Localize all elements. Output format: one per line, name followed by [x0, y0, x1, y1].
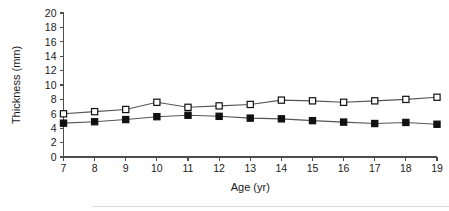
chart-axes — [64, 13, 438, 157]
data-point-filled-square-series — [278, 116, 284, 122]
chart-series — [60, 94, 440, 127]
data-point-filled-square-series — [247, 115, 253, 121]
data-point-filled-square-series — [92, 119, 98, 125]
data-point-open-square-series — [434, 94, 440, 100]
data-point-open-square-series — [154, 99, 160, 105]
y-tick-label: 2 — [51, 136, 57, 148]
y-tick-label: 16 — [45, 36, 57, 48]
x-tick-label: 17 — [369, 162, 381, 174]
footer-rule — [92, 206, 449, 207]
x-tick-label: 14 — [276, 162, 288, 174]
y-tick-label: 6 — [51, 108, 57, 120]
y-tick-label: 12 — [45, 64, 57, 76]
data-point-filled-square-series — [216, 113, 222, 119]
data-point-filled-square-series — [185, 112, 191, 118]
data-point-open-square-series — [341, 99, 347, 105]
data-point-filled-square-series — [60, 120, 66, 126]
data-point-open-square-series — [60, 111, 66, 117]
data-point-open-square-series — [372, 98, 378, 104]
x-axis-ticks: 78910111213141516171819 — [61, 157, 443, 174]
x-tick-label: 13 — [244, 162, 256, 174]
x-tick-label: 12 — [213, 162, 225, 174]
line-chart: 02468101214161820 7891011121314151617181… — [0, 0, 449, 211]
x-tick-label: 19 — [431, 162, 443, 174]
data-point-open-square-series — [92, 109, 98, 115]
chart-figure: 02468101214161820 7891011121314151617181… — [0, 0, 449, 211]
data-point-filled-square-series — [154, 114, 160, 120]
x-tick-label: 9 — [123, 162, 129, 174]
y-tick-label: 14 — [45, 50, 57, 62]
y-tick-label: 20 — [45, 7, 57, 19]
data-point-filled-square-series — [403, 119, 409, 125]
x-tick-label: 7 — [61, 162, 67, 174]
y-axis-title: Thickness (mm) — [10, 46, 22, 124]
data-point-open-square-series — [216, 103, 222, 109]
data-point-filled-square-series — [372, 120, 378, 126]
data-point-filled-square-series — [341, 119, 347, 125]
data-point-open-square-series — [185, 104, 191, 110]
data-point-open-square-series — [309, 98, 315, 104]
x-tick-label: 10 — [151, 162, 163, 174]
y-tick-label: 10 — [45, 79, 57, 91]
data-point-open-square-series — [403, 96, 409, 102]
data-point-filled-square-series — [123, 116, 129, 122]
x-axis-title: Age (yr) — [231, 181, 270, 193]
data-point-open-square-series — [123, 106, 129, 112]
data-point-open-square-series — [278, 97, 284, 103]
x-tick-label: 8 — [92, 162, 98, 174]
y-tick-label: 8 — [51, 93, 57, 105]
data-point-filled-square-series — [309, 118, 315, 124]
x-tick-label: 18 — [400, 162, 412, 174]
data-point-filled-square-series — [434, 121, 440, 127]
x-tick-label: 15 — [307, 162, 319, 174]
x-tick-label: 11 — [183, 162, 194, 174]
x-tick-label: 16 — [338, 162, 350, 174]
y-tick-label: 4 — [51, 122, 57, 134]
y-tick-label: 18 — [45, 21, 57, 33]
data-point-open-square-series — [247, 101, 253, 107]
y-axis-ticks: 02468101214161820 — [45, 7, 64, 163]
y-tick-label: 0 — [51, 151, 57, 163]
